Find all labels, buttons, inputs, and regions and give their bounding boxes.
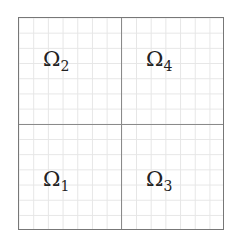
omega-symbol: Ω	[146, 47, 163, 71]
omega-symbol: Ω	[146, 167, 163, 191]
subdomain-label-bottom-right: Ω3	[146, 169, 172, 190]
subdomain-index: 4	[163, 58, 172, 74]
subdomain-index: 2	[60, 58, 69, 74]
omega-symbol: Ω	[43, 167, 60, 191]
subdomain-label-bottom-left: Ω1	[43, 169, 69, 190]
subdomain-index: 3	[163, 178, 172, 194]
domain-square: Ω2 Ω4 Ω1 Ω3	[18, 17, 224, 230]
subdomain-index: 1	[60, 178, 69, 194]
horizontal-midline	[19, 124, 223, 125]
subdomain-label-top-right: Ω4	[146, 49, 172, 70]
subdomain-label-top-left: Ω2	[43, 49, 69, 70]
omega-symbol: Ω	[43, 47, 60, 71]
